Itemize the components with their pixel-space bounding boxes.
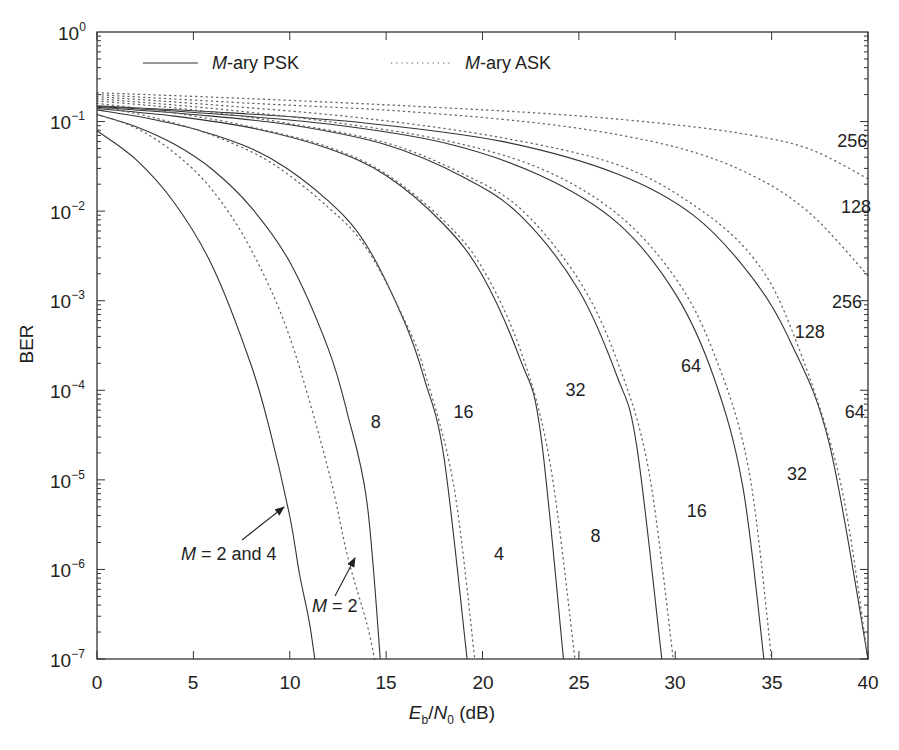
legend: M-ary PSK M-ary ASK: [143, 53, 551, 73]
x-tick-10: 10: [279, 672, 300, 693]
curve-labels: 816326412825648163264128256: [371, 131, 871, 564]
curve-label-ask256: 256: [837, 131, 867, 151]
x-tick-30: 30: [664, 672, 685, 693]
y-tick-labels: 100 10−1 10−2 10−3 10−4 10−5 10−6 10−7: [50, 20, 86, 671]
curve-label-psk64: 64: [681, 356, 701, 376]
curve-label-psk16: 16: [454, 402, 474, 422]
y-tick-6: 10−6: [50, 557, 85, 581]
curve-psk-m-2-and-4: [97, 131, 315, 659]
arrow-label-psk: M = 2 and 4: [181, 544, 277, 564]
y-axis-title: BER: [16, 324, 37, 363]
ber-chart: 100 10−1 10−2 10−3 10−4 10−5 10−6 10−7 0…: [0, 0, 899, 750]
y-tick-7: 10−7: [50, 647, 85, 671]
curve-label-ask8: 8: [590, 526, 600, 546]
x-tick-25: 25: [568, 672, 589, 693]
legend-ask-label: M-ary ASK: [465, 53, 551, 73]
x-tick-40: 40: [857, 672, 878, 693]
curve-psk-m-32: [97, 109, 564, 660]
axis-ticks: [97, 32, 868, 659]
curve-label-psk128: 128: [795, 322, 825, 342]
x-tick-0: 0: [92, 672, 103, 693]
y-tick-0: 100: [58, 20, 86, 44]
y-tick-5: 10−5: [50, 468, 85, 492]
y-tick-1: 10−1: [50, 109, 85, 133]
curve-ask-m-16: [97, 101, 673, 659]
curve-ask-m-32: [97, 99, 772, 659]
curve-label-ask64: 64: [845, 402, 865, 422]
curve-label-ask128: 128: [841, 197, 871, 217]
curve-label-psk8: 8: [371, 412, 381, 432]
curve-label-ask16: 16: [687, 501, 707, 521]
curve-ask-m-64: [97, 97, 868, 659]
curve-label-psk256: 256: [832, 292, 862, 312]
x-axis-title: Eb/N0 (dB): [409, 702, 495, 727]
arrow-annotation-psk: M = 2 and 4: [181, 507, 284, 564]
curve-ask-m-2: [97, 115, 375, 660]
legend-psk-label: M-ary PSK: [212, 53, 299, 73]
x-tick-35: 35: [761, 672, 782, 693]
arrow-label-ask: M = 2: [312, 596, 358, 616]
curve-psk-m-16: [97, 110, 467, 659]
curve-psk-m-256: [97, 106, 868, 659]
curve-ask-m-8: [97, 103, 575, 659]
y-tick-3: 10−3: [50, 288, 85, 312]
curve-label-ask4: 4: [494, 544, 504, 564]
curve-psk-m-8: [97, 115, 380, 660]
arrow-annotation-ask: M = 2: [312, 558, 358, 616]
x-tick-20: 20: [472, 672, 493, 693]
x-tick-15: 15: [375, 672, 396, 693]
x-tick-labels: 0 5 10 15 20 25 30 35 40: [92, 672, 879, 693]
y-tick-4: 10−4: [50, 378, 85, 402]
arrow-icon: [335, 558, 355, 596]
y-tick-2: 10−2: [50, 199, 85, 223]
arrow-icon: [242, 507, 284, 540]
curve-label-ask32: 32: [787, 464, 807, 484]
curves-layer: [97, 93, 868, 659]
x-tick-5: 5: [188, 672, 199, 693]
curve-ask-m-4: [97, 106, 475, 659]
curve-label-psk32: 32: [565, 380, 585, 400]
curve-psk-m-128: [97, 106, 764, 659]
plot-frame: [97, 32, 868, 659]
